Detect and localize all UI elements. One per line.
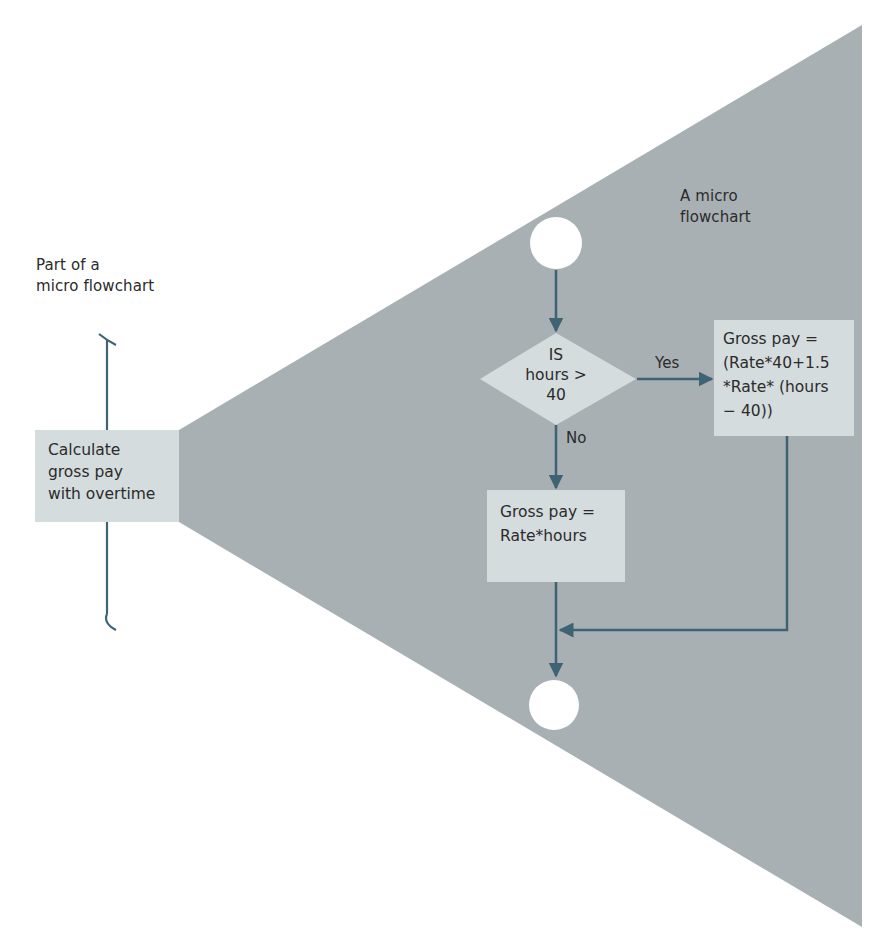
decision-label: IS hours > 40 [506, 345, 606, 405]
end-terminal-circle [529, 680, 579, 730]
regular-box-label: Gross pay = Rate*hours [500, 500, 595, 548]
regular-line1: Gross pay = [500, 500, 595, 524]
process-box-line3: with overtime [48, 483, 155, 505]
regular-line2: Rate*hours [500, 524, 595, 548]
micro-caption-line2: flowchart [680, 207, 751, 228]
process-box-label: Calculate gross pay with overtime [48, 439, 155, 505]
left-caption-line2: micro flowchart [36, 276, 154, 297]
overtime-line3: *Rate* (hours [723, 375, 830, 399]
process-box-line1: Calculate [48, 439, 155, 461]
decision-line2: hours > [506, 365, 606, 385]
overtime-line4: − 40)) [723, 399, 830, 423]
expansion-wedge [179, 25, 862, 927]
overtime-line1: Gross pay = [723, 327, 830, 351]
overtime-line2: (Rate*40+1.5 [723, 351, 830, 375]
decision-line1: IS [506, 345, 606, 365]
micro-caption-line1: A micro [680, 186, 751, 207]
start-terminal-circle [530, 217, 582, 269]
decision-line3: 40 [506, 385, 606, 405]
overtime-box-label: Gross pay = (Rate*40+1.5 *Rate* (hours −… [723, 327, 830, 423]
no-label: No [566, 428, 587, 449]
yes-label: Yes [655, 353, 680, 374]
process-box-line2: gross pay [48, 461, 155, 483]
micro-caption: A micro flowchart [680, 186, 751, 228]
left-caption-line1: Part of a [36, 255, 154, 276]
left-caption: Part of a micro flowchart [36, 255, 154, 297]
